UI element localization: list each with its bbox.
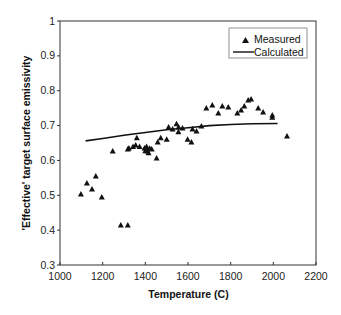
y-tick-label: 0.5 (40, 189, 55, 201)
y-tick-label: 0.7 (40, 119, 55, 131)
triangle-data-point (166, 124, 172, 130)
x-tick-label: 2200 (304, 270, 328, 282)
triangle-data-point (185, 136, 191, 142)
legend-label-measured: Measured (254, 33, 301, 45)
triangle-data-point (89, 186, 95, 192)
triangle-data-point (84, 180, 90, 186)
triangle-data-point (125, 222, 131, 228)
y-tick-label: 0.4 (40, 224, 55, 236)
triangle-data-point (241, 103, 247, 109)
x-tick-label: 1200 (91, 270, 115, 282)
triangle-data-point (215, 110, 221, 116)
calculated-line (86, 124, 278, 141)
x-tick-label: 2000 (262, 270, 286, 282)
legend: Measured Calculated (229, 28, 307, 58)
legend-label-calculated: Calculated (254, 46, 304, 58)
triangle-data-point (134, 135, 140, 141)
triangle-data-point (255, 105, 261, 111)
x-tick-label: 1000 (48, 270, 72, 282)
triangle-data-point (93, 173, 99, 179)
triangle-data-point (154, 155, 160, 161)
triangle-data-point (99, 194, 105, 200)
x-axis-title: Temperature (C) (148, 288, 228, 300)
triangle-data-point (158, 135, 164, 141)
triangle-data-point (203, 105, 209, 111)
chart-canvas: 0.30.40.50.60.70.80.91 10001200140016001… (0, 0, 341, 315)
triangle-data-point (78, 191, 84, 197)
y-tick-label: 1 (49, 15, 55, 27)
y-axis: 0.30.40.50.60.70.80.91 (40, 15, 60, 271)
calculated-series-line (86, 124, 278, 141)
triangle-data-point (110, 148, 116, 154)
triangle-data-point (225, 104, 231, 110)
triangle-data-point (209, 102, 215, 108)
measured-series-markers (78, 96, 290, 227)
triangle-data-point (284, 133, 290, 139)
y-tick-label: 0.9 (40, 49, 55, 61)
triangle-data-point (260, 109, 266, 115)
triangle-data-point (118, 222, 124, 228)
y-axis-title: 'Effective' target surface emissivity (20, 55, 32, 230)
triangle-data-point (219, 103, 225, 109)
x-tick-label: 1600 (176, 270, 200, 282)
chart: 0.30.40.50.60.70.80.91 10001200140016001… (0, 0, 341, 315)
y-tick-label: 0.3 (40, 259, 55, 271)
y-tick-label: 0.6 (40, 154, 55, 166)
triangle-data-point (164, 136, 170, 142)
y-tick-label: 0.8 (40, 84, 55, 96)
x-tick-label: 1800 (219, 270, 243, 282)
x-tick-label: 1400 (134, 270, 158, 282)
